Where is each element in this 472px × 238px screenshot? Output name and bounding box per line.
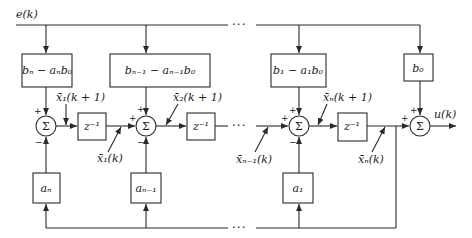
gain-block-b0: b₀ (404, 54, 433, 81)
svg-text:x̄ₙ₋₁(k): x̄ₙ₋₁(k) (236, 153, 272, 166)
gain-block-bn: bₙ − aₙb₀ (22, 54, 73, 87)
gain-block-bn-1: bₙ₋₁ − aₙ₋₁b₀ (110, 54, 210, 87)
delay-block-1: z⁻¹ (78, 113, 106, 140)
svg-text:x̄ₙ(k): x̄ₙ(k) (358, 153, 384, 166)
ellipsis-bottom: ··· (232, 221, 246, 235)
output-label: u(k) (434, 108, 456, 121)
svg-text:Σ: Σ (416, 120, 424, 133)
svg-text:z⁻¹: z⁻¹ (192, 120, 209, 133)
svg-text:b₀: b₀ (412, 62, 424, 75)
summing-junction-output: Σ (410, 116, 430, 136)
svg-text:z⁻¹: z⁻¹ (343, 120, 360, 133)
summing-junction-2: Σ (136, 116, 156, 136)
svg-text:+: + (289, 105, 297, 115)
svg-text:−: − (35, 137, 43, 147)
svg-text:x̄ₙ(k + 1): x̄ₙ(k + 1) (323, 91, 372, 104)
ellipsis-middle: ··· (232, 119, 246, 133)
svg-text:+: + (401, 113, 409, 123)
input-label: e(k) (16, 8, 38, 21)
svg-text:+: + (129, 113, 137, 123)
block-diagram: e(k) ··· bₙ − aₙb₀ bₙ₋₁ − aₙ₋₁b₀ b₁ − a₁… (0, 0, 472, 238)
summing-junction-1: Σ (36, 116, 56, 136)
input-bus (16, 25, 420, 53)
feedback-block-a1: a₁ (283, 173, 313, 203)
summing-junction-3: Σ (289, 116, 309, 136)
svg-text:Σ: Σ (42, 120, 50, 133)
svg-text:Σ: Σ (295, 120, 303, 133)
svg-text:x̄₂(k + 1): x̄₂(k + 1) (173, 91, 222, 104)
svg-text:aₙ₋₁: aₙ₋₁ (135, 182, 156, 195)
svg-text:Σ: Σ (142, 120, 150, 133)
svg-text:a₁: a₁ (293, 182, 304, 195)
svg-text:+: + (410, 105, 418, 115)
svg-text:z⁻¹: z⁻¹ (83, 120, 100, 133)
svg-text:+: + (137, 104, 145, 114)
svg-text:−: − (137, 137, 145, 147)
feedback-block-an: aₙ (33, 173, 60, 203)
svg-text:b₁ − a₁b₀: b₁ − a₁b₀ (273, 64, 324, 77)
svg-text:x̄₁(k + 1): x̄₁(k + 1) (56, 91, 105, 104)
delay-block-n: z⁻¹ (338, 113, 367, 141)
svg-text:aₙ: aₙ (40, 182, 51, 195)
delay-block-2: z⁻¹ (187, 113, 215, 140)
gain-block-b1: b₁ − a₁b₀ (271, 54, 326, 87)
feedback-block-an-1: aₙ₋₁ (131, 173, 161, 203)
svg-text:x̄₁(k): x̄₁(k) (97, 152, 123, 165)
svg-text:+: + (281, 113, 289, 123)
svg-text:−: − (289, 137, 297, 147)
ellipsis-top: ··· (232, 18, 246, 32)
svg-text:bₙ − aₙb₀: bₙ − aₙb₀ (22, 64, 73, 77)
svg-text:bₙ₋₁ − aₙ₋₁b₀: bₙ₋₁ − aₙ₋₁b₀ (125, 64, 196, 77)
svg-text:+: + (34, 106, 42, 116)
